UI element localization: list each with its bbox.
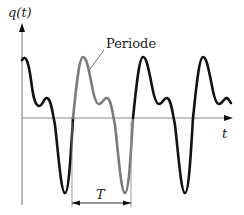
x-axis-arrow-icon bbox=[224, 115, 233, 121]
period-symbol-label: T bbox=[96, 187, 106, 202]
signal-curve-right bbox=[133, 57, 231, 193]
x-axis-label: t bbox=[222, 126, 228, 141]
period-arrow-left-icon bbox=[72, 201, 80, 206]
y-axis-label: q(t) bbox=[8, 5, 32, 20]
signal-curve-period bbox=[73, 57, 133, 193]
period-arrow-right-icon bbox=[123, 201, 131, 206]
signal-curve-left bbox=[22, 58, 73, 193]
periode-label: Periode bbox=[106, 36, 156, 51]
signal-diagram: q(t) t Periode T bbox=[0, 0, 244, 215]
periode-leader-line bbox=[88, 50, 104, 72]
y-axis-arrow-icon bbox=[19, 23, 25, 32]
